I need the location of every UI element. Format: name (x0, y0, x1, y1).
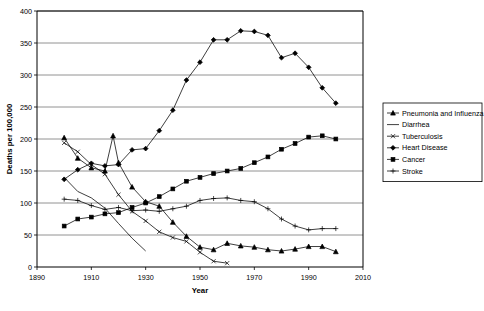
data-point-stroke (293, 224, 298, 229)
legend-label: Stroke (402, 167, 423, 176)
data-point-stroke (238, 198, 243, 203)
data-point-heart-disease (266, 33, 271, 38)
x-axis-tick-label: 1910 (83, 273, 99, 282)
data-point-tuberculosis (171, 235, 175, 239)
legend-label: Diarrhea (402, 120, 430, 129)
y-axis-tick-label: 350 (20, 39, 32, 48)
y-axis-tick-label: 50 (24, 231, 32, 240)
data-point-cancer (62, 224, 66, 228)
data-point-cancer (266, 155, 270, 159)
data-point-stroke (211, 196, 216, 201)
data-point-cancer (76, 217, 80, 221)
data-point-heart-disease (211, 37, 216, 42)
y-axis-tick-label: 0 (28, 263, 32, 272)
legend-label: Cancer (402, 155, 426, 164)
y-axis-title: Deaths per 100,000 (5, 103, 14, 174)
data-point-cancer (212, 172, 216, 176)
data-point-stroke (320, 226, 325, 231)
data-point-stroke (184, 204, 189, 209)
legend-label: Tuberculosis (402, 132, 443, 141)
data-point-pneumonia-and-influenza (130, 185, 135, 190)
x-axis-title: Year (192, 286, 208, 295)
y-axis-tick-label: 200 (20, 135, 32, 144)
y-axis-tick-label: 400 (20, 7, 32, 16)
data-point-cancer (320, 134, 324, 138)
data-point-stroke (102, 207, 107, 212)
chart-container: 0501001502002503003504001890191019301950… (0, 0, 484, 311)
data-point-heart-disease (225, 37, 230, 42)
data-point-heart-disease (62, 177, 67, 182)
data-point-heart-disease (89, 161, 94, 166)
data-point-cancer (171, 187, 175, 191)
data-point-heart-disease (238, 28, 243, 33)
x-axis-tick-label: 1970 (246, 273, 262, 282)
data-point-cancer (117, 211, 121, 215)
legend-label: Heart Disease (402, 143, 448, 152)
data-point-cancer (225, 169, 229, 173)
data-point-tuberculosis (157, 230, 161, 234)
data-point-tuberculosis (76, 150, 80, 154)
data-point-cancer (198, 176, 202, 180)
data-point-stroke (157, 209, 162, 214)
data-point-cancer (144, 201, 148, 205)
data-point-stroke (116, 205, 121, 210)
data-point-stroke (198, 198, 203, 203)
data-point-tuberculosis (144, 219, 148, 223)
data-point-stroke (333, 226, 338, 231)
legend-label: Pneumonia and Influenza (402, 109, 484, 118)
data-point-cancer (89, 215, 93, 219)
y-axis-tick-label: 250 (20, 103, 32, 112)
x-axis-tick-label: 2010 (355, 273, 371, 282)
data-point-stroke (225, 195, 230, 200)
data-point-tuberculosis (62, 141, 66, 145)
data-point-tuberculosis (184, 239, 188, 243)
data-point-stroke (306, 227, 311, 232)
data-point-pneumonia-and-influenza (111, 133, 116, 138)
line-chart: 0501001502002503003504001890191019301950… (0, 0, 484, 311)
data-point-cancer (185, 179, 189, 183)
x-axis-tick-label: 1990 (301, 273, 317, 282)
legend-marker (391, 158, 395, 162)
data-point-pneumonia-and-influenza (75, 156, 80, 161)
x-axis-tick-label: 1890 (29, 273, 45, 282)
data-point-heart-disease (170, 108, 175, 113)
data-point-stroke (143, 208, 148, 213)
data-point-pneumonia-and-influenza (62, 135, 67, 140)
data-point-stroke (170, 206, 175, 211)
data-point-cancer (239, 167, 243, 171)
x-axis-tick-label: 1950 (192, 273, 208, 282)
data-point-cancer (157, 195, 161, 199)
data-point-tuberculosis (198, 250, 202, 254)
data-point-pneumonia-and-influenza (333, 249, 338, 254)
data-point-cancer (334, 137, 338, 141)
x-axis-tick-label: 1930 (138, 273, 154, 282)
data-point-heart-disease (279, 55, 284, 60)
y-axis-tick-label: 150 (20, 167, 32, 176)
y-axis-tick-label: 100 (20, 199, 32, 208)
data-point-stroke (252, 199, 257, 204)
data-point-heart-disease (252, 29, 257, 34)
data-point-cancer (103, 212, 107, 216)
data-point-cancer (307, 135, 311, 139)
y-axis-tick-label: 300 (20, 71, 32, 80)
data-point-cancer (293, 142, 297, 146)
data-point-tuberculosis (116, 193, 120, 197)
series-line-pneumonia-and-influenza (64, 136, 336, 252)
data-point-cancer (280, 147, 284, 151)
data-point-stroke (89, 203, 94, 208)
data-point-pneumonia-and-influenza (225, 241, 230, 246)
data-point-stroke (75, 198, 80, 203)
data-point-stroke (62, 197, 67, 202)
data-point-cancer (252, 161, 256, 165)
